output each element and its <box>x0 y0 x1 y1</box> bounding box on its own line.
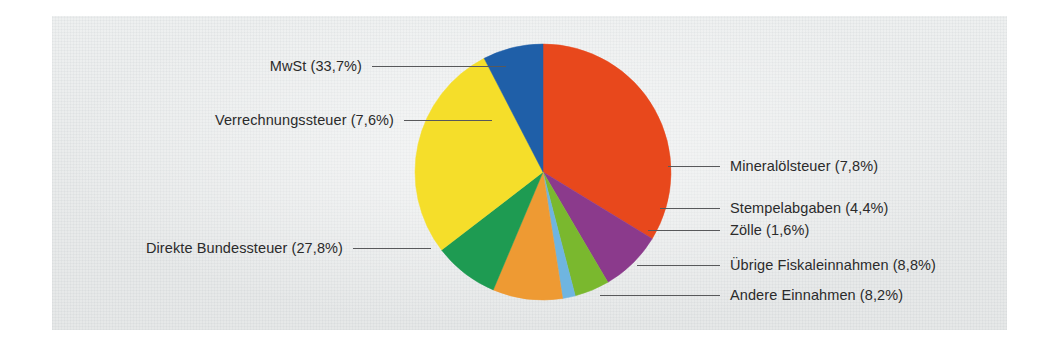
leader-line-uebrige-fiskaleinnahmen <box>637 265 720 266</box>
pie-svg <box>0 0 1052 359</box>
pie-slices <box>415 44 671 300</box>
slice-label-mwst: MwSt (33,7%) <box>110 59 362 74</box>
slice-label-zoelle: Zölle (1,6%) <box>730 223 809 238</box>
leader-line-mineraloelsteuer <box>668 166 720 167</box>
slice-label-andere-einnahmen: Andere Einnahmen (8,2%) <box>730 288 903 303</box>
leader-line-stempelabgaben <box>660 208 720 209</box>
slice-label-direkte-bundessteuer: Direkte Bundessteuer (27,8%) <box>90 241 343 256</box>
leader-line-verrechnungssteuer <box>404 120 492 121</box>
slice-label-mineraloelsteuer: Mineralölsteuer (7,8%) <box>730 159 878 174</box>
slice-label-verrechnungssteuer: Verrechnungssteuer (7,6%) <box>110 113 394 128</box>
figure-root: MwSt (33,7%) Verrechnungssteuer (7,6%) D… <box>0 0 1052 359</box>
leader-line-direkte-bundessteuer <box>353 248 431 249</box>
leader-line-andere-einnahmen <box>600 295 720 296</box>
slice-label-stempelabgaben: Stempelabgaben (4,4%) <box>730 201 888 216</box>
pie-chart: MwSt (33,7%) Verrechnungssteuer (7,6%) D… <box>0 0 1052 359</box>
leader-line-mwst <box>372 66 506 67</box>
slice-label-uebrige-fiskaleinnahmen: Übrige Fiskaleinnahmen (8,8%) <box>730 258 936 273</box>
leader-line-zoelle <box>648 230 720 231</box>
